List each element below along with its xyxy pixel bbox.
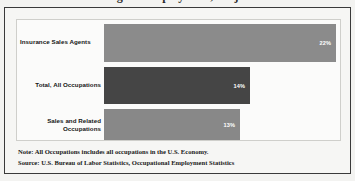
bar-value-label: 13% [224,122,236,128]
chart-title-text: Percent Change in Employment, Projected … [0,0,355,4]
plot-area: Insurance Sales Agents 22% Total, All Oc… [16,19,341,141]
bar-category-label: Sales and Related Occupations [19,117,101,133]
bar-category-label-line1: Total, All Occupations [35,81,101,88]
bar-value-label: 14% [234,83,246,89]
bar-row: Insurance Sales Agents 22% [17,24,340,62]
figure-outer-frame: Insurance Sales Agents 22% Total, All Oc… [4,7,351,174]
bars-container: Insurance Sales Agents 22% Total, All Oc… [17,20,340,140]
bar-category-label-line1: Insurance Sales Agents [20,38,91,45]
bar-category-label: Insurance Sales Agents [20,38,102,46]
bar-value-label: 22% [320,40,332,46]
bar-sales-and-related-occupations[interactable]: 13% [104,109,240,140]
bar-row: Total, All Occupations 14% [17,67,340,104]
bar-insurance-sales-agents[interactable]: 22% [104,24,336,62]
footnote-source: Source: U.S. Bureau of Labor Statistics,… [18,158,338,169]
chart-figure: Percent Change in Employment, Projected … [0,0,355,181]
chart-title-clipped: Percent Change in Employment, Projected … [0,0,355,7]
bar-category-label-line1: Sales and Related [47,117,101,124]
footnote-block: Note: All Occupations includes all occup… [18,147,338,168]
footnote-note: Note: All Occupations includes all occup… [18,147,338,158]
bar-total-all-occupations[interactable]: 14% [104,67,250,104]
bar-row: Sales and Related Occupations 13% [17,109,340,140]
bar-category-label-line2: Occupations [63,125,101,132]
bar-category-label: Total, All Occupations [19,81,101,89]
